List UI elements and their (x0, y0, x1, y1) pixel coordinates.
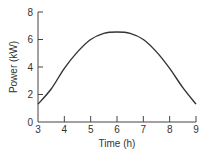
x-tick-label: 5 (88, 124, 94, 135)
x-tick-label: 9 (193, 124, 199, 135)
power-curve (38, 32, 196, 104)
axes: 345678902468 (27, 7, 199, 136)
x-tick-label: 6 (114, 124, 120, 135)
x-tick-label: 7 (141, 124, 147, 135)
y-tick-label: 8 (27, 7, 33, 18)
x-tick-label: 4 (62, 124, 68, 135)
x-tick-label: 3 (35, 124, 41, 135)
y-tick-label: 4 (27, 62, 33, 73)
y-tick-label: 0 (27, 117, 33, 128)
y-axis-label: Power (kW) (8, 41, 19, 93)
power-time-chart: 345678902468 Time (h) Power (kW) (0, 0, 210, 160)
x-axis-label: Time (h) (99, 138, 136, 149)
y-tick-label: 6 (27, 34, 33, 45)
y-tick-label: 2 (27, 89, 33, 100)
x-tick-label: 8 (167, 124, 173, 135)
